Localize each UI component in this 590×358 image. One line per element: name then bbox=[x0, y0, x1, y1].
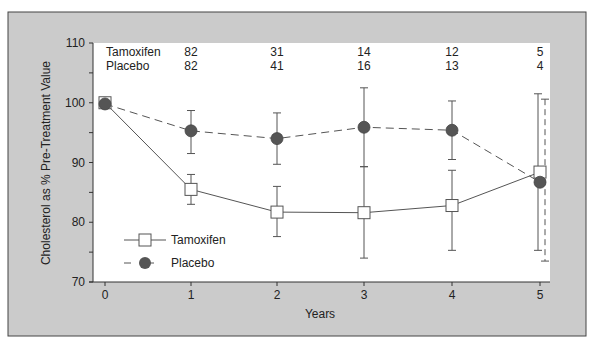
n-table-row-label: Placebo bbox=[106, 59, 150, 73]
n-table-count: 41 bbox=[270, 59, 284, 73]
y-tick-label: 90 bbox=[72, 156, 86, 170]
plot-area bbox=[93, 43, 550, 282]
n-table-count: 31 bbox=[270, 45, 284, 59]
n-table-count: 82 bbox=[184, 45, 198, 59]
n-table-count: 12 bbox=[445, 45, 459, 59]
placebo-marker bbox=[446, 124, 458, 136]
n-table-count: 16 bbox=[357, 59, 371, 73]
tamoxifen-marker bbox=[185, 183, 197, 195]
n-table-count: 5 bbox=[537, 45, 544, 59]
placebo-marker bbox=[358, 121, 370, 133]
legend-tamoxifen-label: Tamoxifen bbox=[171, 233, 226, 247]
x-tick-label: 4 bbox=[449, 288, 456, 302]
n-table-count: 13 bbox=[445, 59, 459, 73]
n-table-count: 14 bbox=[357, 45, 371, 59]
legend-placebo-label: Placebo bbox=[171, 256, 215, 270]
placebo-marker bbox=[99, 98, 111, 110]
tamoxifen-marker bbox=[446, 200, 458, 212]
chart-svg: 708090100110012345 Tamoxifen823114125Pla… bbox=[0, 0, 590, 358]
chart-figure: 708090100110012345 Tamoxifen823114125Pla… bbox=[0, 0, 590, 358]
y-axis-label: Cholesterol as % Pre-Treatment Value bbox=[39, 61, 53, 265]
legend-tamoxifen-marker bbox=[139, 234, 151, 246]
legend-placebo-marker bbox=[139, 257, 151, 269]
x-tick-label: 1 bbox=[188, 288, 195, 302]
y-tick-label: 70 bbox=[72, 275, 86, 289]
placebo-marker bbox=[185, 125, 197, 137]
n-table-row-label: Tamoxifen bbox=[106, 45, 161, 59]
y-tick-label: 110 bbox=[66, 36, 85, 50]
x-tick-label: 5 bbox=[537, 288, 544, 302]
placebo-marker bbox=[534, 176, 546, 188]
x-tick-label: 2 bbox=[274, 288, 281, 302]
n-table-count: 82 bbox=[184, 59, 198, 73]
y-tick-label: 100 bbox=[65, 96, 85, 110]
tamoxifen-marker bbox=[271, 206, 283, 218]
x-tick-label: 3 bbox=[361, 288, 368, 302]
placebo-marker bbox=[271, 133, 283, 145]
x-axis-label: Years bbox=[305, 307, 335, 321]
tamoxifen-marker bbox=[358, 207, 370, 219]
x-tick-label: 0 bbox=[102, 288, 109, 302]
y-tick-label: 80 bbox=[72, 215, 86, 229]
n-table-count: 4 bbox=[537, 59, 544, 73]
